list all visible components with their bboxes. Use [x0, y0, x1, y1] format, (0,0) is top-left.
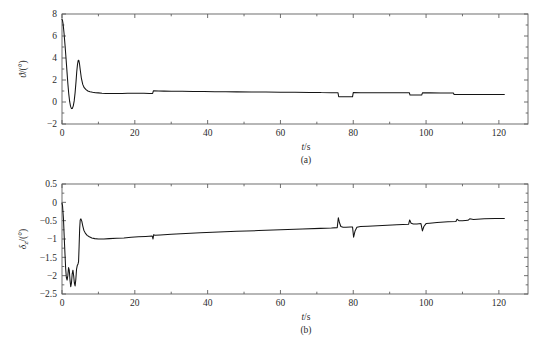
y-axis-label-b: δz/(°): [18, 229, 30, 249]
x-tick-label: 60: [276, 298, 286, 308]
y-tick-label: 8: [52, 9, 57, 19]
chart-panel-b: 020406080100120−2.5−2−1.5−1−0.500.5δz/(°…: [0, 170, 548, 348]
y-tick-label: 4: [52, 53, 57, 63]
panel-caption-b: (b): [300, 325, 311, 336]
x-tick-label: 0: [60, 128, 65, 138]
y-tick-label: −1: [47, 234, 57, 244]
x-tick-label: 0: [60, 298, 65, 308]
x-tick-label: 120: [492, 298, 507, 308]
plot-frame-a: [62, 14, 528, 124]
x-tick-label: 100: [419, 298, 434, 308]
y-tick-label: 0: [52, 97, 57, 107]
x-tick-label: 60: [276, 128, 286, 138]
x-tick-label: 80: [349, 128, 359, 138]
plot-a-svg: 020406080100120−202468ϑ/(°)t/s(a): [0, 0, 548, 178]
y-tick-label: −2: [47, 271, 57, 281]
y-tick-label: −0.5: [40, 216, 57, 226]
x-tick-label: 40: [203, 298, 213, 308]
data-series-elevator-deflection: [62, 203, 504, 287]
y-tick-label: −1.5: [40, 253, 57, 263]
y-tick-label: 0: [52, 198, 57, 208]
x-tick-label: 120: [492, 128, 507, 138]
x-tick-label: 100: [419, 128, 434, 138]
x-tick-label: 20: [130, 298, 140, 308]
y-tick-label: 0.5: [45, 179, 57, 189]
x-axis-label-a: t/s: [301, 142, 310, 152]
y-axis-label-a: ϑ/(°): [18, 60, 29, 77]
data-series-pitch-angle: [62, 20, 504, 109]
y-tick-label: −2: [47, 119, 57, 129]
x-tick-label: 40: [203, 128, 213, 138]
x-tick-label: 20: [130, 128, 140, 138]
y-tick-label: 6: [52, 31, 57, 41]
plot-b-svg: 020406080100120−2.5−2−1.5−1−0.500.5δz/(°…: [0, 170, 548, 348]
figure-container: 020406080100120−202468ϑ/(°)t/s(a) 020406…: [0, 0, 548, 348]
x-axis-label-b: t/s: [301, 312, 310, 322]
y-tick-label: −2.5: [40, 289, 57, 299]
x-tick-label: 80: [349, 298, 359, 308]
plot-frame-b: [62, 184, 528, 294]
chart-panel-a: 020406080100120−202468ϑ/(°)t/s(a): [0, 0, 548, 178]
panel-caption-a: (a): [301, 155, 312, 166]
y-tick-label: 2: [52, 75, 57, 85]
